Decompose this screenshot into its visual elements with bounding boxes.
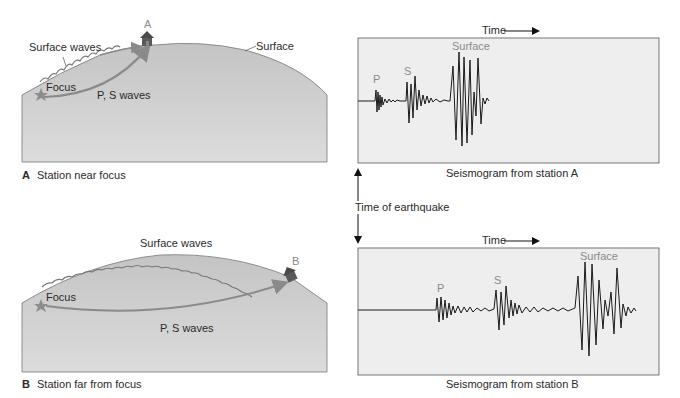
s-wave-label: S	[404, 66, 411, 77]
panel-a-letter: A	[22, 170, 30, 181]
time-axis-label: Time	[482, 235, 506, 246]
diagram-canvas	[0, 0, 680, 398]
panel-b-caption: Station far from focus	[37, 379, 142, 390]
panel-b-letter: B	[22, 379, 30, 390]
seismogram-a-caption: Seismogram from station A	[446, 168, 578, 179]
ps-waves-label: P, S waves	[160, 323, 214, 334]
focus-label: Focus	[46, 82, 76, 93]
station-a-label: A	[144, 19, 151, 30]
p-wave-label: P	[373, 74, 380, 85]
ps-waves-label: P, S waves	[97, 90, 151, 101]
panel-a-earth-cross-section	[22, 43, 327, 162]
surface-wave-label: Surface	[580, 251, 618, 262]
surface-waves-label: Surface waves	[140, 238, 212, 249]
station-a-house-icon	[140, 31, 154, 46]
station-b-label: B	[292, 256, 299, 267]
surface-waves-label: Surface waves	[29, 42, 101, 53]
panel-b-earth-cross-section	[22, 255, 327, 372]
focus-label: Focus	[46, 292, 76, 303]
time-of-earthquake-label: Time of earthquake	[355, 201, 449, 214]
time-axis-label: Time	[482, 25, 506, 36]
surface-wave-label: Surface	[452, 41, 490, 52]
surface-label: Surface	[256, 41, 294, 52]
panel-a-caption: Station near focus	[37, 170, 126, 181]
seismogram-b-caption: Seismogram from station B	[446, 379, 579, 390]
p-wave-label: P	[437, 283, 444, 294]
s-wave-label: S	[494, 275, 501, 286]
